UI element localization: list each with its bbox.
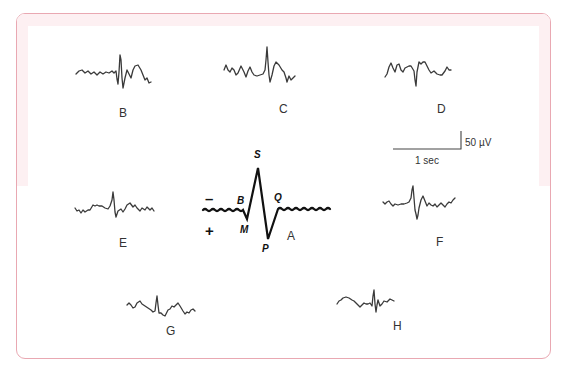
waveform-d: D <box>385 62 451 116</box>
scale-amplitude: 50 µV <box>465 137 492 148</box>
polarity-negative: – <box>205 190 213 207</box>
label-c: C <box>279 102 288 116</box>
waveform-b: B <box>76 55 151 120</box>
scale-bar: 50 µV 1 sec <box>393 131 492 166</box>
label-h: H <box>393 319 402 333</box>
main-trace <box>203 168 330 239</box>
waveform-c: C <box>224 47 295 116</box>
waveform-figure: B C D 50 µV 1 sec E S B Q M P – + A F <box>0 0 566 370</box>
label-d: D <box>437 102 446 116</box>
waveform-h: H <box>337 290 402 333</box>
waveform-g: G <box>127 296 195 338</box>
waveform-f: F <box>383 186 455 249</box>
point-p: P <box>262 243 269 254</box>
point-s: S <box>254 149 261 160</box>
waveform-e: E <box>75 192 154 250</box>
label-a: A <box>287 229 295 243</box>
polarity-positive: + <box>205 222 214 239</box>
scale-bar-lines <box>393 131 461 149</box>
label-b: B <box>119 106 127 120</box>
point-m: M <box>240 224 249 235</box>
label-e: E <box>119 236 127 250</box>
label-f: F <box>436 235 443 249</box>
point-b: B <box>237 195 244 206</box>
label-g: G <box>166 324 175 338</box>
scale-time: 1 sec <box>415 155 439 166</box>
point-q: Q <box>274 192 282 203</box>
waveform-a: S B Q M P – + A <box>203 149 330 254</box>
